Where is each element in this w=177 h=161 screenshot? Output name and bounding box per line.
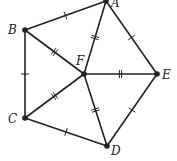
- label-d: D: [110, 144, 121, 158]
- tick-mark: [129, 108, 136, 113]
- tick-mark: [128, 35, 135, 40]
- label-f: F: [75, 54, 85, 68]
- segment-fd: [84, 74, 107, 146]
- label-b: B: [7, 23, 17, 37]
- label-e: E: [161, 68, 171, 82]
- vertex-b: [22, 27, 28, 33]
- segment-fa: [84, 1, 106, 74]
- vertex-labels: A B C D E F: [7, 0, 171, 158]
- segment-fc: [25, 74, 84, 118]
- label-a: A: [110, 0, 120, 10]
- segments: [25, 1, 157, 146]
- vertex-e: [154, 71, 160, 77]
- label-c: C: [8, 112, 17, 126]
- pentagon-diagram: A B C D E F: [0, 0, 177, 161]
- vertex-c: [22, 115, 28, 121]
- vertex-f: [81, 71, 87, 77]
- vertex-d: [104, 143, 110, 149]
